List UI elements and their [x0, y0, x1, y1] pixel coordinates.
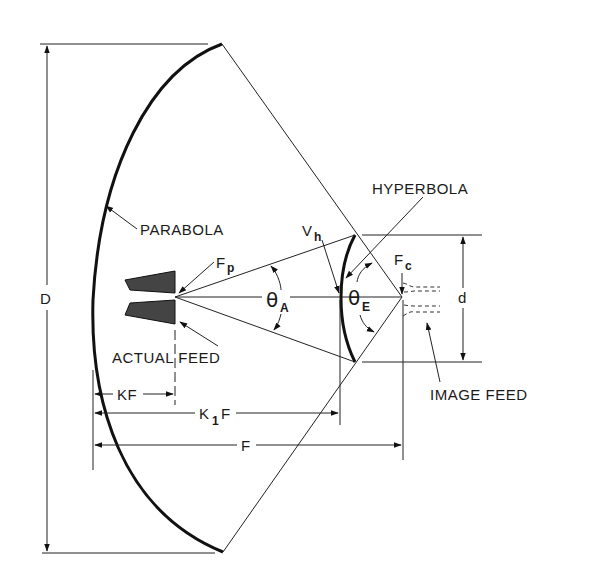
actual-feed-icon [125, 271, 175, 324]
k1f-label-sub: 1 [212, 414, 219, 428]
diameter-label: D [40, 290, 51, 307]
vh-sub: h [314, 230, 321, 244]
vh-label: V [302, 222, 313, 239]
theta-a-angle: θ A [266, 266, 289, 330]
vh-callout: V h [302, 222, 339, 293]
k1f-label-f: F [221, 405, 231, 422]
theta-a-sub: A [280, 301, 289, 315]
theta-e-symbol: θ [348, 286, 360, 310]
fp-callout: F p [179, 254, 234, 293]
theta-a-symbol: θ [266, 288, 278, 312]
kf-dimension: KF [95, 386, 173, 403]
focal-length-dimension: F [95, 437, 401, 454]
actual-feed-callout: ACTUAL FEED [112, 322, 220, 366]
kf-label: KF [117, 386, 137, 403]
k1f-dimension: K 1 F [95, 405, 338, 428]
focal-length-label: F [241, 437, 251, 454]
fc-label: F [394, 251, 404, 268]
parabola-curve [93, 44, 223, 552]
image-feed-icon [403, 283, 440, 316]
subreflector-diameter-dimension: d [362, 235, 482, 362]
parabola-label: PARABOLA [140, 221, 224, 238]
fp-label: F [216, 254, 226, 271]
k1f-label-k: K [199, 405, 210, 422]
theta-e-sub: E [362, 300, 370, 314]
image-feed-label: IMAGE FEED [430, 386, 528, 403]
parabola-callout: PARABOLA [106, 206, 224, 238]
image-feed-callout: IMAGE FEED [427, 323, 528, 403]
subreflector-diameter-label: d [458, 289, 467, 306]
hyperbola-label: HYPERBOLA [372, 180, 468, 197]
diameter-dimension: D [40, 44, 215, 553]
fc-sub: c [405, 259, 412, 273]
fc-callout: F c [394, 251, 412, 294]
ray-lines [175, 44, 402, 552]
cassegrain-diagram: D d KF [0, 0, 602, 588]
fp-sub: p [227, 261, 234, 275]
actual-feed-label: ACTUAL FEED [112, 349, 220, 366]
